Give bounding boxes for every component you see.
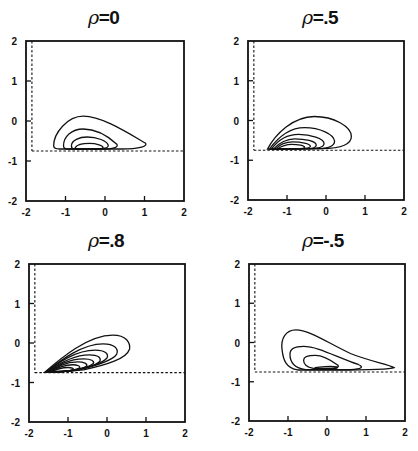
y-tick-label: -1: [231, 377, 240, 388]
y-tick-label: -2: [231, 416, 240, 427]
y-tick-label: 0: [234, 338, 240, 349]
x-tick-label: 2: [402, 427, 408, 438]
contour-line: [282, 330, 394, 370]
x-tick-label: -1: [284, 427, 293, 438]
plot-frame: [249, 264, 405, 421]
y-tick-label: 2: [234, 259, 240, 270]
x-tick-label: 1: [363, 427, 369, 438]
x-tick-label: -2: [245, 427, 254, 438]
contour-plot: -2-1012-2-1012: [0, 0, 418, 451]
y-tick-label: 1: [234, 298, 240, 309]
x-tick-label: 0: [324, 427, 330, 438]
